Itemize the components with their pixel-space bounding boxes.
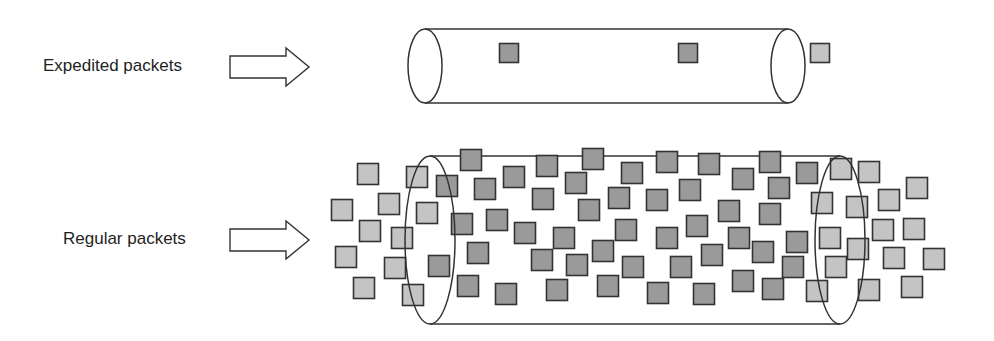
packet: [763, 279, 784, 300]
packet: [392, 228, 413, 249]
packet: [385, 258, 406, 279]
packet: [532, 250, 553, 271]
packet: [769, 178, 790, 199]
packet: [583, 149, 604, 170]
packet: [812, 193, 833, 214]
pipe-entry-ellipse: [408, 29, 442, 103]
packet: [547, 280, 568, 301]
packet: [593, 241, 614, 262]
packet: [647, 190, 668, 211]
packet: [417, 203, 438, 224]
packet: [671, 257, 692, 278]
arrow-right-icon: [230, 221, 309, 259]
packet: [623, 257, 644, 278]
packet: [461, 150, 482, 171]
packet: [783, 257, 804, 278]
packet: [753, 242, 774, 263]
packet: [566, 173, 587, 194]
packet: [879, 190, 900, 211]
packet: [379, 194, 400, 215]
packet: [609, 188, 630, 209]
packet: [598, 276, 619, 297]
arrow-right-icon: [230, 48, 309, 86]
packet: [760, 204, 781, 225]
packet: [733, 271, 754, 292]
packet: [687, 216, 708, 237]
packet: [533, 189, 554, 210]
packet: [500, 44, 519, 63]
packet: [468, 243, 489, 264]
packet: [733, 169, 754, 190]
packet: [873, 220, 894, 241]
packet: [504, 167, 525, 188]
packet: [811, 44, 830, 63]
packet: [554, 228, 575, 249]
packet: [622, 163, 643, 184]
packet: [537, 156, 558, 177]
expedited-row: [230, 29, 830, 103]
packet: [719, 201, 740, 222]
packet: [694, 284, 715, 305]
packet-pipe-diagram: [0, 0, 994, 341]
packet: [699, 154, 720, 175]
packet: [924, 249, 945, 270]
packet: [567, 255, 588, 276]
packet: [859, 162, 880, 183]
packet: [907, 178, 928, 199]
packet: [826, 257, 847, 278]
packet: [679, 44, 698, 63]
packet: [760, 152, 781, 173]
packet: [657, 228, 678, 249]
packet: [807, 281, 828, 302]
packet: [475, 179, 496, 200]
packet: [429, 256, 450, 277]
packet: [579, 200, 600, 221]
packet: [358, 164, 379, 185]
packet: [648, 283, 669, 304]
packet: [354, 278, 375, 299]
packet: [496, 284, 517, 305]
packet: [360, 221, 381, 242]
packet: [820, 228, 841, 249]
packet: [729, 228, 750, 249]
packet: [787, 232, 808, 253]
pipe-exit-ellipse: [771, 29, 805, 103]
packet: [657, 152, 678, 173]
packet: [902, 277, 923, 298]
packet: [680, 180, 701, 201]
packet: [797, 163, 818, 184]
packet: [904, 219, 925, 240]
packet: [616, 220, 637, 241]
packet: [336, 247, 357, 268]
regular-row: [230, 149, 945, 325]
packet: [458, 276, 479, 297]
packet: [515, 223, 536, 244]
packet: [332, 200, 353, 221]
packet: [884, 248, 905, 269]
packet: [487, 210, 508, 231]
packet: [702, 245, 723, 266]
